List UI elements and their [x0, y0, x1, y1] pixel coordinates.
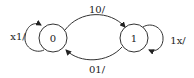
arrow-self-loop-1 [143, 25, 163, 51]
arrow-1-to-0 [66, 47, 122, 60]
state-1-label: 1 [131, 33, 137, 44]
arrow-0-to-1 [65, 15, 125, 30]
transition-0-to-1: 10/ [65, 4, 125, 30]
arrow-self-loop-0 [25, 24, 44, 52]
transition-label-0-to-1: 10/ [89, 4, 106, 15]
state-diagram: 0 1 10/ 01/ x1/ 1x/ [0, 0, 194, 78]
transition-label-self-1: 1x/ [170, 35, 186, 46]
state-0-label: 0 [50, 33, 56, 44]
state-1: 1 [120, 24, 148, 52]
transition-1-to-0: 01/ [66, 47, 122, 75]
self-loop-1: 1x/ [143, 25, 186, 51]
transition-label-self-0: x1/ [10, 31, 26, 42]
transition-label-1-to-0: 01/ [89, 64, 106, 75]
state-0: 0 [39, 24, 67, 52]
